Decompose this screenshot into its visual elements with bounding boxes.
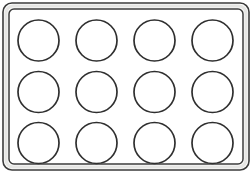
cup-r1c2 — [76, 20, 117, 61]
cup-r3c3 — [134, 123, 175, 164]
drawing-canvas — [0, 0, 252, 173]
cup-r3c1 — [18, 123, 59, 164]
baking-tray-illustration — [0, 0, 252, 173]
cup-r1c3 — [134, 20, 175, 61]
cup-r2c3 — [134, 72, 175, 113]
cup-r3c2 — [76, 123, 117, 164]
cup-r3c4 — [192, 123, 233, 164]
cup-r1c1 — [18, 20, 59, 61]
cup-r2c2 — [76, 72, 117, 113]
cup-r2c4 — [192, 72, 233, 113]
cup-r2c1 — [18, 72, 59, 113]
cup-r1c4 — [192, 20, 233, 61]
